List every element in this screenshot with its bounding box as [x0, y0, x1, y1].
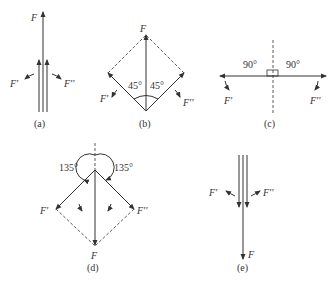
label-F: F	[30, 12, 38, 23]
label-F-prime: F'	[208, 187, 218, 198]
label-F: F	[247, 249, 255, 260]
force-diagram-figure: F F' F'' (a) F F' F'' 45° 45° (b) 90° 90…	[0, 0, 331, 283]
panel-a: F F' F'' (a)	[9, 12, 75, 130]
angle-left: 90°	[243, 59, 257, 70]
angle-right: 45°	[150, 80, 164, 91]
label-F-double-prime: F''	[63, 78, 75, 89]
angle-right: 90°	[286, 59, 300, 70]
panel-c: 90° 90° F' F'' (c)	[220, 40, 326, 130]
angle-left: 135°	[59, 162, 78, 173]
panel-b: F F' F'' 45° 45° (b)	[99, 23, 194, 130]
caption-c: (c)	[264, 118, 275, 130]
caption-b: (b)	[139, 118, 151, 130]
caption-d: (d)	[87, 262, 99, 274]
label-F-prime: F'	[223, 95, 233, 106]
label-F-double-prime: F''	[136, 205, 148, 216]
label-F-prime: F'	[9, 78, 19, 89]
panel-d: 135° 135° F' F'' F (d)	[39, 143, 148, 274]
label-F-prime: F'	[39, 205, 49, 216]
label-F-prime: F'	[99, 93, 109, 104]
angle-left: 45°	[128, 80, 142, 91]
panel-e: F' F'' F (e)	[208, 155, 274, 274]
caption-a: (a)	[34, 118, 45, 130]
label-F: F	[139, 23, 147, 34]
angle-right: 135°	[114, 162, 133, 173]
label-F-double-prime: F''	[182, 97, 194, 108]
label-F-double-prime: F''	[262, 187, 274, 198]
label-F-double-prime: F''	[309, 95, 321, 106]
caption-e: (e)	[237, 262, 248, 274]
label-F: F	[90, 250, 98, 261]
